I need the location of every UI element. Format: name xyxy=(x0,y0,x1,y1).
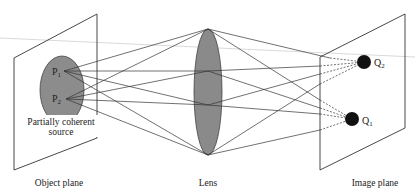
source-label-line1: Partially coherent xyxy=(27,117,95,127)
lens xyxy=(194,29,222,155)
lens-label: Lens xyxy=(199,178,218,188)
object-plane-label: Object plane xyxy=(35,178,83,188)
optics-diagram: P1 P2 Q2 Q1 Partially coherent source Ob… xyxy=(0,0,415,192)
image-plane xyxy=(320,14,405,170)
image-point-q2 xyxy=(357,55,371,69)
label-q1: Q1 xyxy=(362,115,373,128)
rays-lens-to-image xyxy=(208,29,330,155)
image-plane-label: Image plane xyxy=(352,178,399,188)
image-point-q1 xyxy=(345,112,359,126)
source-label-line2: source xyxy=(49,127,74,137)
label-q2: Q2 xyxy=(374,57,385,70)
partially-coherent-source xyxy=(40,56,84,124)
